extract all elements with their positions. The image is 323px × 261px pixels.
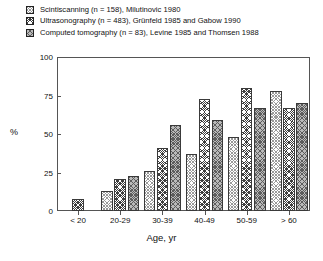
x-tick-mark	[162, 211, 163, 215]
bar-group	[99, 57, 141, 211]
y-tick-label: 50	[44, 130, 53, 139]
bar	[270, 91, 282, 211]
x-tick-mark	[78, 211, 79, 215]
bar-group	[57, 57, 99, 211]
x-tick-label: 30-39	[152, 216, 172, 225]
bar	[170, 125, 182, 211]
bar-group	[141, 57, 183, 211]
y-axis-title: %	[10, 127, 18, 137]
y-tick-label: 100	[40, 53, 53, 62]
x-tick-mark	[120, 211, 121, 215]
y-axis-tick-labels: 100 75 50 25 0	[20, 57, 53, 211]
chart-root: Scintiscanning (n = 158), Milutinovic 19…	[0, 0, 323, 261]
x-tick-mark	[247, 211, 248, 215]
bar	[128, 176, 140, 211]
bar-group	[226, 57, 268, 211]
x-tick-label: 20-29	[110, 216, 130, 225]
bar	[241, 88, 253, 211]
x-tick-label: > 60	[281, 216, 297, 225]
bar	[72, 199, 84, 211]
bar	[283, 108, 295, 211]
x-tick-mark	[205, 211, 206, 215]
bar	[101, 191, 113, 211]
bar	[157, 148, 169, 211]
bar	[186, 154, 198, 211]
x-tick-label: 40-49	[194, 216, 214, 225]
x-tick-label: < 20	[70, 216, 86, 225]
bar	[199, 99, 211, 211]
x-tick-mark	[289, 211, 290, 215]
bar	[114, 179, 126, 211]
bar	[144, 171, 156, 211]
bar	[212, 120, 224, 211]
bar-group	[268, 57, 310, 211]
bar	[296, 103, 308, 211]
x-axis-title: Age, yr	[0, 232, 323, 243]
bar	[228, 137, 240, 211]
bars-layer	[57, 57, 310, 211]
plot-area: 100 75 50 25 0 % Age, yr < 2020-2930-394…	[0, 0, 323, 261]
bar	[254, 108, 266, 211]
bar-group	[184, 57, 226, 211]
y-tick-label: 0	[49, 207, 53, 216]
x-tick-label: 50-59	[237, 216, 257, 225]
y-tick-label: 25	[44, 168, 53, 177]
y-tick-label: 75	[44, 91, 53, 100]
